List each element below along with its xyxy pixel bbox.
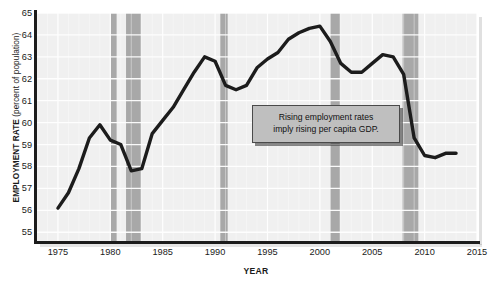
x-axis-tick-label: 2015: [447, 247, 503, 257]
y-axis-tick-label: 65: [2, 8, 32, 18]
x-axis-tick-label: 1995: [237, 247, 297, 257]
x-axis-tick-label: 1990: [185, 247, 245, 257]
y-axis-tick-labels: 5556575859606162636465: [0, 0, 32, 287]
annotation-line-2: imply rising per capita GDP.: [257, 123, 395, 135]
y-axis-tick-label: 57: [2, 183, 32, 193]
annotation-callout: Rising employment rates imply rising per…: [252, 105, 400, 143]
y-axis-tick-label: 59: [2, 140, 32, 150]
x-axis-title: YEAR: [36, 266, 476, 276]
x-axis-tick-label: 2005: [342, 247, 402, 257]
y-axis-tick-label: 61: [2, 96, 32, 106]
annotation-line-1: Rising employment rates: [257, 111, 395, 123]
x-axis-tick-label: 1975: [28, 247, 88, 257]
x-axis-tick-label: 2010: [395, 247, 455, 257]
x-axis-tick-label: 2000: [290, 247, 350, 257]
y-axis-line: [34, 10, 37, 244]
y-axis-tick-label: 62: [2, 74, 32, 84]
y-axis-tick-label: 56: [2, 205, 32, 215]
recession-band: [403, 13, 419, 241]
plot-shadow-right: [479, 17, 482, 245]
employment-rate-chart: EMPLOYMENT RATE (percent of population) …: [0, 0, 503, 287]
recession-band: [126, 13, 141, 241]
y-axis-tick-label: 64: [2, 30, 32, 40]
y-axis-tick-label: 63: [2, 52, 32, 62]
recession-band: [110, 13, 116, 241]
recession-band: [220, 13, 227, 241]
y-axis-tick-label: 55: [2, 227, 32, 237]
y-axis-tick-label: 58: [2, 161, 32, 171]
y-axis-tick-label: 60: [2, 118, 32, 128]
x-axis-line: [34, 241, 480, 244]
x-axis-tick-label: 1980: [80, 247, 140, 257]
x-axis-tick-label: 1985: [133, 247, 193, 257]
